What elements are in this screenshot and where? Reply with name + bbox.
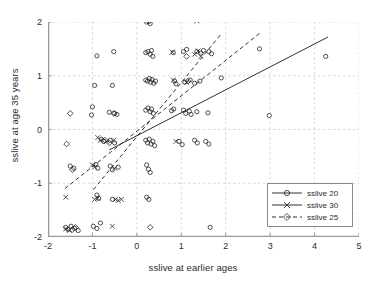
legend-sample-diamond-icon [270, 211, 304, 223]
legend-label: sslive 30 [304, 201, 338, 210]
legend-label: sslive 25 [304, 213, 338, 222]
x-tick-label: 0 [134, 241, 139, 251]
legend-sample-circle-icon [270, 187, 304, 199]
legend-item[interactable]: sslive 30 [270, 199, 350, 211]
y-tick-label: -1 [24, 178, 42, 188]
fit-line [65, 33, 260, 189]
scatter-plot-figure: sslive at earlier ages sslive at age 35 … [0, 0, 386, 291]
x-tick-label: 4 [312, 241, 317, 251]
legend-sample-cross-icon [270, 199, 304, 211]
x-tick-label: 2 [223, 241, 228, 251]
x-tick-label: 1 [179, 241, 184, 251]
series-points [64, 54, 191, 233]
legend-item[interactable]: sslive 25 [270, 211, 350, 223]
legend-item[interactable]: sslive 20 [270, 187, 350, 199]
x-tick-label: 5 [356, 241, 361, 251]
y-tick-label: 2 [24, 17, 42, 27]
fit-line [109, 37, 328, 150]
legend-label: sslive 20 [304, 189, 338, 198]
y-tick-label: 1 [24, 71, 42, 81]
x-axis-title: sslive at earlier ages [0, 262, 386, 273]
x-tick-label: -2 [44, 241, 52, 251]
x-tick-label: -1 [88, 241, 96, 251]
y-axis-title: sslive at age 35 years [9, 16, 20, 216]
legend: sslive 20sslive 30sslive 25 [267, 183, 353, 227]
y-tick-label: -2 [24, 232, 42, 242]
x-tick-label: 3 [268, 241, 273, 251]
y-tick-label: 0 [24, 125, 42, 135]
